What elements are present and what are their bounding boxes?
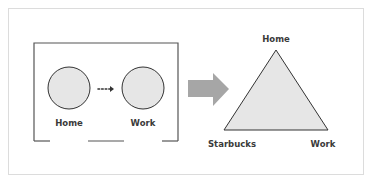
work-node-circle <box>122 67 164 109</box>
home-node-label: Home <box>55 118 83 128</box>
triangle-starbucks-label: Starbucks <box>208 139 256 149</box>
right-arrow-icon <box>188 73 229 106</box>
diagram-canvas: Home Work Home Starbucks Work <box>0 0 372 184</box>
dotted-arrow-icon <box>98 86 114 92</box>
triangle-home-label: Home <box>262 34 290 44</box>
home-node-circle <box>48 67 90 109</box>
work-node-label: Work <box>131 118 156 128</box>
triangle-shape <box>224 50 328 130</box>
triangle-work-label: Work <box>311 139 336 149</box>
